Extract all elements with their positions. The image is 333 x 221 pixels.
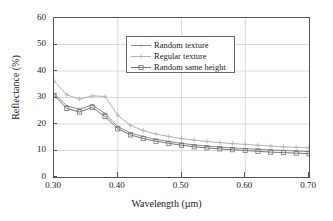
y-tick-mark (53, 44, 57, 45)
y-tick-label: 50 (24, 39, 46, 48)
legend-label: Random texture (154, 41, 209, 50)
y-tick-label: 40 (24, 66, 46, 75)
chart-legend: Random textureRegular textureRandom same… (126, 36, 235, 73)
legend-label: Regular texture (154, 52, 207, 61)
y-tick-label: 10 (24, 145, 46, 154)
y-tick-label: 20 (24, 119, 46, 128)
x-tick-mark (117, 172, 118, 177)
y-tick-mark (53, 97, 57, 98)
legend-item[interactable]: Regular texture (131, 51, 230, 62)
x-tick-mark (244, 172, 245, 177)
x-axis-title: Wavelength (µm) (0, 198, 333, 209)
x-tick-label: 0.60 (224, 181, 264, 190)
legend-marker-icon (131, 52, 151, 61)
legend-item[interactable]: Random texture (131, 40, 230, 51)
legend-label: Random same height (154, 63, 226, 72)
y-tick-mark (53, 17, 57, 18)
y-tick-mark (53, 123, 57, 124)
legend-marker-icon (131, 41, 151, 50)
x-tick-mark (53, 172, 54, 177)
y-tick-label: 60 (24, 13, 46, 22)
x-tick-mark (308, 172, 309, 177)
y-axis-title: Reflectance (%) (10, 33, 21, 143)
chart-figure: 0102030405060 0.300.400.500.600.70 Wavel… (0, 0, 333, 221)
x-tick-label: 0.50 (161, 181, 201, 190)
y-tick-label: 30 (24, 92, 46, 101)
x-tick-label: 0.30 (33, 181, 73, 190)
x-tick-label: 0.40 (97, 181, 137, 190)
x-tick-mark (181, 172, 182, 177)
y-tick-mark (53, 150, 57, 151)
legend-marker-icon (131, 63, 151, 72)
legend-item[interactable]: Random same height (131, 62, 230, 73)
y-tick-mark (53, 70, 57, 71)
y-tick-label: 0 (24, 172, 46, 181)
x-tick-label: 0.70 (288, 181, 328, 190)
